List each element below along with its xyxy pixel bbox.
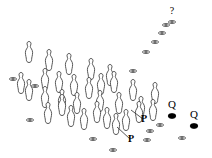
upright-marker	[80, 109, 87, 130]
upright-marker	[112, 114, 119, 135]
flat-open-marker	[151, 41, 158, 44]
flat-open-marker	[168, 21, 175, 24]
label-p-2: P	[128, 133, 134, 144]
flat-open-marker	[26, 119, 33, 122]
figure-canvas: PPQQ?	[0, 0, 212, 158]
flat-open-marker	[162, 24, 169, 27]
upright-marker	[87, 59, 94, 80]
flat-open-marker	[156, 124, 163, 127]
upright-marker	[103, 108, 110, 129]
upright-marker	[25, 80, 32, 101]
label-p-1: P	[141, 113, 147, 124]
flat-open-marker	[158, 32, 165, 35]
label-q-2: Q	[190, 108, 198, 120]
flat-open-marker	[146, 130, 153, 133]
upright-marker	[65, 54, 72, 75]
upright-marker	[67, 106, 74, 127]
upright-marker	[122, 110, 129, 131]
flat-open-marker	[9, 78, 16, 81]
upright-marker	[129, 80, 136, 101]
upright-marker	[85, 78, 92, 99]
flat-open-marker	[142, 51, 149, 54]
upright-marker	[25, 42, 32, 63]
upright-marker-group	[17, 42, 158, 135]
flat-open-marker	[143, 139, 150, 142]
upright-marker	[17, 73, 24, 94]
flat-open-marker	[129, 70, 136, 73]
flat-filled-marker	[190, 124, 198, 129]
upright-marker	[115, 93, 122, 114]
label-unknown: ?	[170, 5, 175, 16]
flat-open-marker	[89, 138, 96, 141]
label-q-1: Q	[168, 98, 176, 110]
flat-open-marker	[31, 85, 38, 88]
upright-marker	[45, 50, 52, 71]
flat-filled-marker	[168, 114, 176, 119]
figure-svg: PPQQ?	[0, 0, 212, 158]
flat-open-marker	[109, 149, 116, 152]
flat-open-marker	[178, 137, 185, 140]
